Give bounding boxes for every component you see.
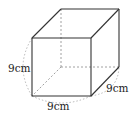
height-label: 9cm [8, 62, 31, 74]
top-left-edge [32, 9, 61, 38]
cube-diagram: 9cm 9cm 9cm [0, 0, 135, 116]
dimension-arcs [23, 38, 119, 103]
hidden-edge-depth [32, 67, 61, 96]
depth-label: 9cm [106, 82, 129, 94]
top-right-edge [91, 9, 119, 38]
width-label: 9cm [47, 100, 70, 112]
